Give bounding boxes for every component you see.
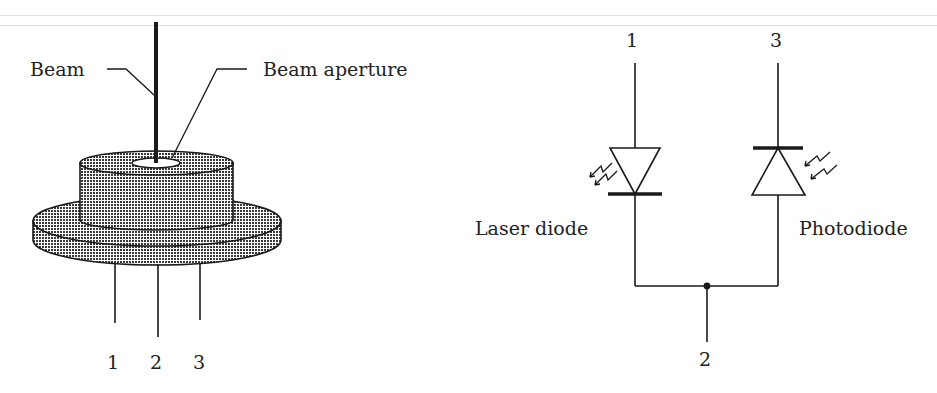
photodiode-label: Photodiode — [799, 219, 908, 238]
terminal-label-2: 2 — [699, 350, 711, 369]
equivalent-circuit — [590, 63, 837, 342]
pin-label-1: 1 — [107, 353, 119, 372]
beam-label: Beam — [30, 60, 85, 79]
terminal-label-1: 1 — [626, 31, 638, 50]
pin-label-3: 3 — [193, 353, 205, 372]
laser-diode-symbol — [610, 148, 660, 194]
beam-leader — [107, 69, 154, 95]
diagram-canvas — [0, 0, 937, 393]
laser-diode-label: Laser diode — [475, 219, 588, 238]
aperture-leader — [172, 69, 247, 158]
beam-aperture-label: Beam aperture — [263, 60, 408, 79]
photodiode-symbol — [752, 148, 805, 195]
terminal-label-3: 3 — [770, 31, 782, 50]
photodiode-incident-arrows-icon — [805, 152, 837, 179]
laser-emission-arrows-icon — [590, 163, 617, 185]
pin-label-2: 2 — [150, 353, 162, 372]
